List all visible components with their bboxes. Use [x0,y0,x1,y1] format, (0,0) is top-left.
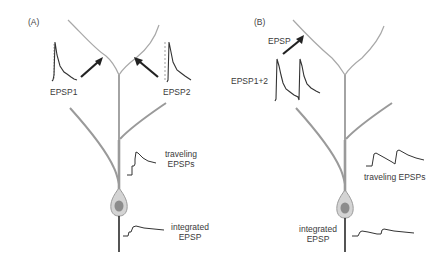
traveling-epsps-label-b: traveling EPSPs [364,172,425,182]
nucleus-b [341,203,350,214]
dendrite-lower-right [120,103,166,139]
epsp2-label: EPSP2 [163,87,190,97]
integrated-label-b-line2: EPSP [296,234,340,244]
integrated-label-line2: EPSP [168,232,212,242]
panel-a-neuron [52,20,191,252]
epsp2-trace [165,42,191,82]
integrated-epsp-label-b: integrated EPSP [296,224,340,244]
dendrite-lower-right-b [346,103,392,139]
panel-b-neuron [275,20,424,252]
epsp1-label: EPSP1 [50,87,77,97]
synapse-2-icon [134,57,158,77]
dendrite-upper-left-b [293,20,345,75]
panel-b-label: (B) [254,17,265,27]
dendrite-lower-left [70,108,119,184]
integrated-label-b-line1: integrated [296,224,340,234]
integrated-epsp-trace-b [352,229,414,236]
integrated-epsp-label-a: integrated EPSP [168,222,212,242]
traveling-label-line2: EPSPs [163,159,199,169]
epsp12-label: EPSP1+2 [231,76,268,86]
dendrite-upper-right [119,25,159,75]
epsp-label-b: EPSP [268,36,291,46]
integrated-label-line1: integrated [168,222,212,232]
nucleus [115,201,124,212]
traveling-epsps-trace-b [366,150,424,166]
epsp12-trace [275,59,320,101]
synapse-1-icon [81,57,103,77]
panel-a-label: (A) [28,17,39,27]
dendrite-lower-left-b [296,108,345,184]
neuron-diagram [0,0,444,271]
dendrite-upper-right-b [345,26,384,75]
traveling-epsps-trace-a [127,152,156,175]
traveling-epsps-label-a: traveling EPSPs [163,149,199,169]
epsp1-trace [52,42,77,81]
integrated-epsp-trace-a [123,226,164,236]
traveling-label-line1: traveling [163,149,199,159]
